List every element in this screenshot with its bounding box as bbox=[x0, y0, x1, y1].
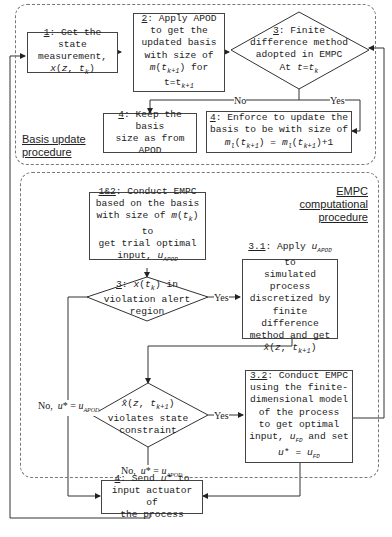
edge-label-yes-constraint: Yes bbox=[214, 410, 229, 421]
node-apply-apod: 2: Apply APOD to get the updated basis w… bbox=[133, 13, 225, 92]
decision-finite-difference: 3: Finite difference method adopted in E… bbox=[236, 25, 362, 77]
empc-procedure-label: EMPC computational procedure bbox=[300, 185, 369, 224]
edge-label-no-top: No bbox=[234, 95, 246, 106]
edge-label-yes-alert: Yes bbox=[214, 292, 229, 303]
decision-violation-alert-region: 3: x(tk) in violation alert region bbox=[97, 279, 197, 319]
edge-label-no-alert: No, u* = uAPOD bbox=[38, 400, 99, 416]
decision-violates-state-constraint: x̂(z, tk+1) violates state constraint bbox=[103, 398, 193, 438]
node-conduct-empc-trial: 1&2: Conduct EMPC based on the basis wit… bbox=[89, 192, 206, 260]
node-conduct-empc-fd: 3.2: Conduct EMPC using the finite- dime… bbox=[245, 370, 353, 463]
basis-update-label: Basis update procedure bbox=[22, 133, 86, 159]
edge-label-yes-top: Yes bbox=[330, 95, 345, 106]
node-keep-basis-size: 4: Keep the basis size as from APOD bbox=[103, 113, 197, 153]
node-enforce-update-basis: 4: Enforce to update the basis to be wit… bbox=[206, 111, 352, 153]
node-apply-uapod-simulated: 3.1: Apply uAPOD to simulated process di… bbox=[242, 259, 338, 339]
node-send-to-actuator: 4: Send u* to input actuator of the proc… bbox=[101, 480, 203, 514]
node-get-state-measurement: 1: Get the state measurement, x(z, tk) bbox=[27, 32, 118, 73]
